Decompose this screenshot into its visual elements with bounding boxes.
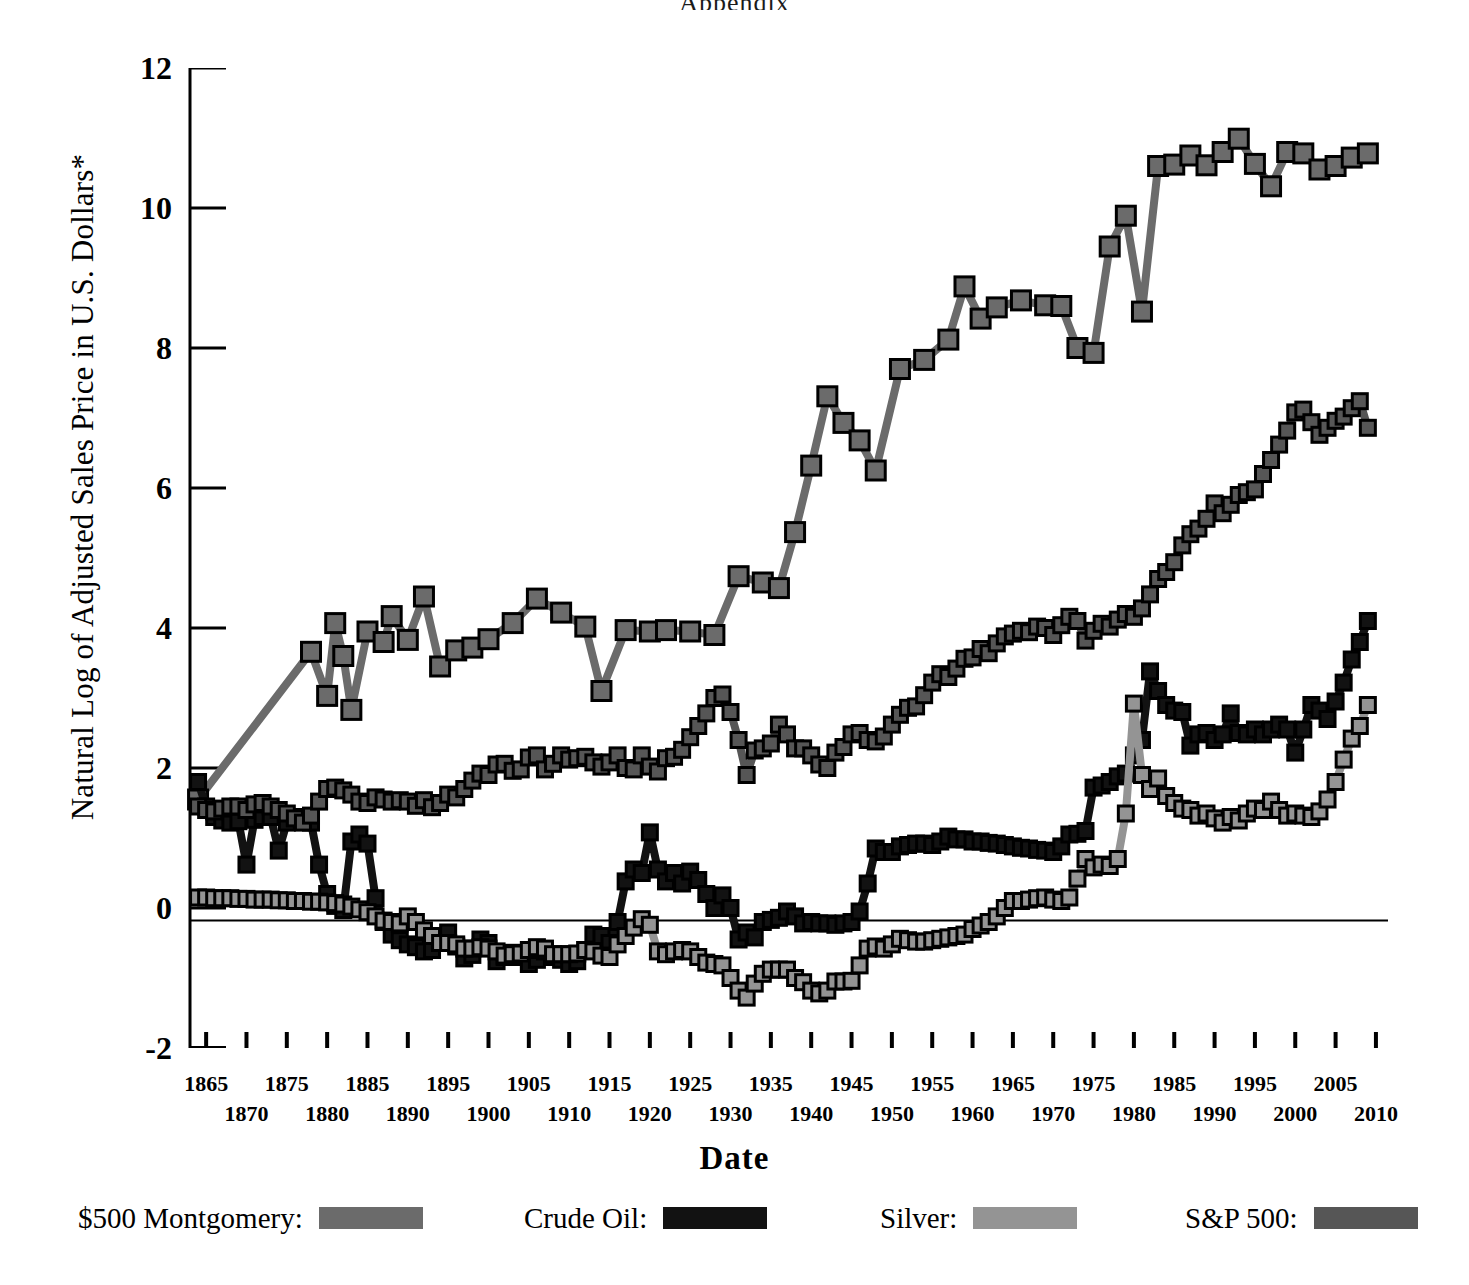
legend-label: Crude Oil: <box>524 1196 663 1240</box>
x-tick-label: 1880 <box>282 1102 372 1126</box>
x-tick-label: 1965 <box>968 1072 1058 1096</box>
x-tick-label: 1975 <box>1049 1072 1139 1096</box>
x-tick-label: 1910 <box>524 1102 614 1126</box>
legend-color-swatch <box>973 1207 1077 1229</box>
x-tick-label: 1920 <box>605 1102 695 1126</box>
legend-entry: Crude Oil: <box>524 1196 767 1240</box>
x-tick-label: 1890 <box>363 1102 453 1126</box>
legend-label: S&P 500: <box>1185 1196 1314 1240</box>
x-tick-label: 1960 <box>928 1102 1018 1126</box>
x-tick-label: 1990 <box>1170 1102 1260 1126</box>
y-tick-label: -2 <box>62 1032 172 1064</box>
x-tick-label: 1980 <box>1089 1102 1179 1126</box>
x-tick-label: 1930 <box>686 1102 776 1126</box>
y-tick-label: 0 <box>62 892 172 924</box>
x-axis-title: Date <box>0 1140 1469 1177</box>
legend-entry: Silver: <box>880 1196 1077 1240</box>
x-tick-label: 1905 <box>484 1072 574 1096</box>
x-tick-label: 1875 <box>242 1072 332 1096</box>
series-500-montgomery <box>189 129 1378 809</box>
x-tick-label: 2010 <box>1331 1102 1421 1126</box>
x-tick-label: 1955 <box>887 1072 977 1096</box>
legend-color-swatch <box>319 1207 423 1229</box>
legend-color-swatch <box>663 1207 767 1229</box>
y-tick-label: 6 <box>62 472 172 504</box>
y-tick-label: 2 <box>62 752 172 784</box>
chart-legend: $500 Montgomery:Crude Oil:Silver:S&P 500… <box>0 1196 1469 1252</box>
legend-color-swatch <box>1314 1207 1418 1229</box>
x-tick-label: 1935 <box>726 1072 816 1096</box>
x-tick-label: 1950 <box>847 1102 937 1126</box>
x-tick-label: 1885 <box>322 1072 412 1096</box>
x-tick-label: 1895 <box>403 1072 493 1096</box>
x-tick-label: 1985 <box>1129 1072 1219 1096</box>
data-series-group <box>189 129 1378 1005</box>
x-tick-label: 1945 <box>807 1072 897 1096</box>
y-tick-label: 4 <box>62 612 172 644</box>
x-tick-label: 1915 <box>565 1072 655 1096</box>
x-tick-label: 1870 <box>201 1102 291 1126</box>
x-tick-label: 1995 <box>1210 1072 1300 1096</box>
x-tick-label: 1865 <box>161 1072 251 1096</box>
plot-svg <box>186 68 1398 1048</box>
x-tick-label: 2005 <box>1291 1072 1381 1096</box>
legend-label: $500 Montgomery: <box>78 1196 319 1240</box>
y-tick-label: 8 <box>62 332 172 364</box>
legend-entry: $500 Montgomery: <box>78 1196 423 1240</box>
x-tick-label: 1970 <box>1008 1102 1098 1126</box>
chart-figure: Appendix Natural Log of Adjusted Sales P… <box>0 0 1469 1285</box>
x-tick-label: 1940 <box>766 1102 856 1126</box>
x-tick-label: 1925 <box>645 1072 735 1096</box>
x-tick-label: 2000 <box>1250 1102 1340 1126</box>
y-tick-label: 10 <box>62 192 172 224</box>
x-tick-label: 1900 <box>444 1102 534 1126</box>
plot-area <box>186 68 1398 1048</box>
clipped-header-text: Appendix <box>0 0 1469 10</box>
series-s-p-500 <box>191 394 1376 830</box>
legend-label: Silver: <box>880 1196 973 1240</box>
x-axis-ticks <box>206 1032 1376 1048</box>
legend-entry: S&P 500: <box>1185 1196 1418 1240</box>
y-tick-label: 12 <box>62 52 172 84</box>
